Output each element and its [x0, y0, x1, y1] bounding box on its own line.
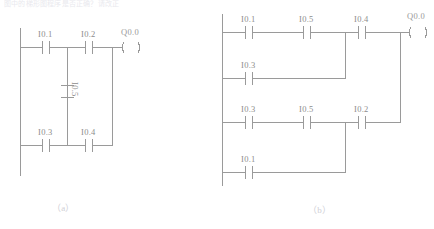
caption-b: （b） — [308, 205, 331, 216]
label-a-r1c2: I0.2 — [81, 29, 96, 39]
b-coil-q00-left-arc — [409, 28, 411, 38]
label-b-r3c1: I0.3 — [241, 104, 256, 114]
label-b-r2c1: I0.3 — [241, 60, 256, 70]
label-b-r3c3: I0.2 — [354, 104, 369, 114]
caption-a: （a） — [52, 203, 75, 214]
b-coil-q00-right-arc — [425, 28, 427, 38]
label-a-r1c1: I0.1 — [38, 29, 53, 39]
label-b-r1c2: I0.5 — [299, 14, 314, 24]
label-a-r2c1: I0.3 — [38, 127, 53, 137]
a-coil-q00-left-arc — [122, 43, 124, 53]
label-b-r1c3: I0.4 — [354, 14, 369, 24]
a-coil-q00-right-arc — [138, 43, 140, 53]
ladder-diagram-canvas — [0, 0, 434, 229]
label-a-coil-q00: Q0.0 — [121, 27, 139, 37]
label-a-bridge-i05: I0.5 — [70, 82, 80, 97]
label-a-r2c2: I0.4 — [81, 127, 96, 137]
label-b-coil-q00: Q0.0 — [407, 11, 425, 21]
label-b-r3c2: I0.5 — [299, 104, 314, 114]
label-b-r4c1: I0.1 — [241, 154, 256, 164]
label-b-r1c1: I0.1 — [241, 14, 256, 24]
